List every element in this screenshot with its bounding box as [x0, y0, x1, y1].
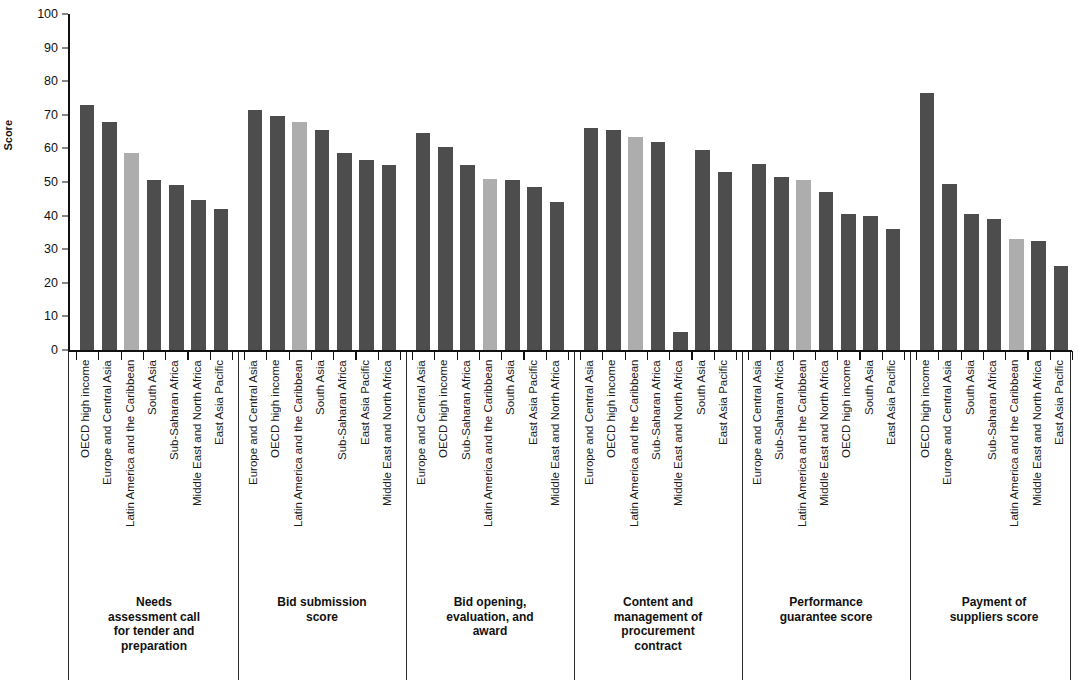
bar — [124, 153, 139, 350]
y-tick-label: 50 — [44, 175, 58, 189]
bar — [920, 93, 935, 350]
group-title-line: guarantee score — [742, 610, 910, 625]
bar — [964, 214, 979, 350]
group-title: Content andmanagement ofprocurementcontr… — [574, 595, 742, 653]
y-tick-label: 40 — [44, 209, 58, 223]
bar — [695, 150, 710, 350]
bar — [416, 133, 431, 350]
group-title-line: Bid submission — [238, 595, 406, 610]
bar — [1031, 241, 1046, 350]
bar — [774, 177, 789, 350]
bar — [337, 153, 352, 350]
group-title-line: Performance — [742, 595, 910, 610]
bar — [584, 128, 599, 350]
group-title-line: Content and — [574, 595, 742, 610]
bar — [987, 219, 1002, 350]
y-tick-label: 10 — [44, 309, 58, 323]
y-axis-tick-labels: 0102030405060708090100 — [22, 0, 68, 680]
y-tick-label: 60 — [44, 141, 58, 155]
group-title-line: score — [238, 610, 406, 625]
bar — [359, 160, 374, 350]
bar — [628, 137, 643, 350]
bar — [606, 130, 621, 350]
bar — [796, 180, 811, 350]
bar — [527, 187, 542, 350]
bar — [863, 216, 878, 350]
bar — [1054, 266, 1069, 350]
bar — [80, 105, 95, 350]
y-axis-title: Score — [2, 120, 20, 151]
bar — [942, 184, 957, 350]
group-title-line: Needs — [70, 595, 238, 610]
bar — [248, 110, 263, 350]
y-tick-label: 30 — [44, 242, 58, 256]
bar — [841, 214, 856, 350]
group-title-line: procurement — [574, 624, 742, 639]
bar — [819, 192, 834, 350]
group-title: Needsassessment callfor tender andprepar… — [70, 595, 238, 653]
bar — [147, 180, 162, 350]
group-title: Payment ofsuppliers score — [910, 595, 1078, 624]
group-title-line: assessment call — [70, 610, 238, 625]
bar — [460, 165, 475, 350]
x-tick-mark — [1072, 351, 1073, 360]
bar — [505, 180, 520, 350]
bar — [169, 185, 184, 350]
bar — [886, 229, 901, 350]
group-title-line: for tender and — [70, 624, 238, 639]
group-title-line: preparation — [70, 639, 238, 654]
y-tick-label: 100 — [37, 7, 58, 21]
group-title-line: suppliers score — [910, 610, 1078, 625]
bar — [752, 164, 767, 350]
chart-page: Score 0102030405060708090100 OECD high i… — [0, 0, 1078, 680]
y-tick-label: 70 — [44, 108, 58, 122]
group-title-line: award — [406, 624, 574, 639]
bar — [315, 130, 330, 350]
bar — [214, 209, 229, 350]
bar — [102, 122, 117, 350]
y-tick-label: 20 — [44, 276, 58, 290]
bar — [673, 332, 688, 350]
bar — [718, 172, 733, 350]
y-tick-label: 0 — [51, 343, 58, 357]
bar — [382, 165, 397, 350]
group-title: Bid submissionscore — [238, 595, 406, 624]
y-tick-label: 90 — [44, 41, 58, 55]
bar — [651, 142, 666, 350]
group-title-line: management of — [574, 610, 742, 625]
group-title-line: contract — [574, 639, 742, 654]
bar — [292, 122, 307, 350]
group-title: Performanceguarantee score — [742, 595, 910, 624]
y-axis-line — [68, 14, 70, 350]
group-title-line: evaluation, and — [406, 610, 574, 625]
bar — [1009, 239, 1024, 350]
bar — [438, 147, 453, 350]
bar — [270, 116, 285, 350]
y-tick-label: 80 — [44, 74, 58, 88]
group-title-line: Payment of — [910, 595, 1078, 610]
bar — [550, 202, 565, 350]
plot-area — [68, 14, 1072, 350]
group-title-line: Bid opening, — [406, 595, 574, 610]
group-title: Bid opening,evaluation, andaward — [406, 595, 574, 639]
group-titles: Needsassessment callfor tender andprepar… — [68, 595, 1072, 680]
bar — [191, 200, 206, 350]
bar — [483, 179, 498, 350]
